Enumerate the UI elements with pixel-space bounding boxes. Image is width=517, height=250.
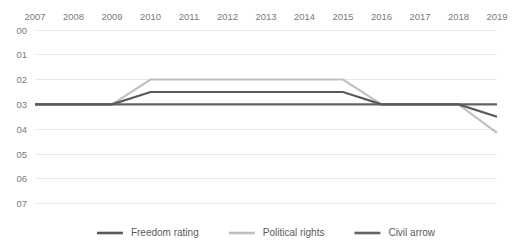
x-axis-tick-label: 2016 bbox=[371, 11, 392, 22]
y-axis-tick-label: 01 bbox=[16, 49, 27, 60]
gridlines bbox=[35, 30, 497, 204]
x-axis-tick-label: 2008 bbox=[63, 11, 84, 22]
legend-label-political-rights: Political rights bbox=[263, 227, 325, 238]
y-axis-tick-label: 02 bbox=[16, 74, 27, 85]
y-axis-tick-label: 00 bbox=[16, 25, 27, 36]
legend-label-freedom-rating: Freedom rating bbox=[131, 227, 199, 238]
chart-canvas: 0001020304050607 20072008200920102011201… bbox=[0, 0, 517, 250]
x-axis-tick-labels: 2007200820092010201120122013201420152016… bbox=[24, 11, 507, 22]
x-axis-tick-label: 2019 bbox=[486, 11, 507, 22]
x-axis-tick-label: 2011 bbox=[179, 11, 199, 22]
chart-legend: Freedom ratingPolitical rightsCivil arro… bbox=[97, 227, 436, 238]
x-axis-tick-label: 2010 bbox=[140, 11, 161, 22]
x-axis-tick-label: 2012 bbox=[217, 11, 238, 22]
x-axis-tick-label: 2007 bbox=[24, 11, 45, 22]
y-axis-tick-labels: 0001020304050607 bbox=[16, 25, 27, 210]
y-axis-tick-label: 07 bbox=[16, 198, 27, 209]
line-chart: 0001020304050607 20072008200920102011201… bbox=[0, 0, 517, 250]
series-lines bbox=[35, 80, 497, 133]
x-axis-tick-label: 2013 bbox=[255, 11, 276, 22]
x-axis-tick-label: 2018 bbox=[448, 11, 469, 22]
y-axis-tick-label: 05 bbox=[16, 149, 27, 160]
x-axis-tick-label: 2015 bbox=[332, 11, 353, 22]
x-axis-tick-label: 2014 bbox=[294, 11, 315, 22]
y-axis-tick-label: 03 bbox=[16, 99, 27, 110]
series-line-political-rights bbox=[35, 80, 497, 133]
y-axis-tick-label: 04 bbox=[16, 124, 27, 135]
legend-label-civil-arrow: Civil arrow bbox=[388, 227, 435, 238]
y-axis-tick-label: 06 bbox=[16, 173, 27, 184]
x-axis-tick-label: 2009 bbox=[101, 11, 122, 22]
x-axis-tick-label: 2017 bbox=[409, 11, 430, 22]
